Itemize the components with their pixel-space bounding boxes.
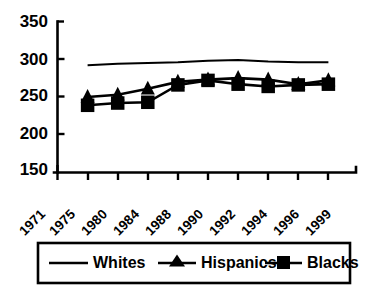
triangle-marker-icon: [169, 255, 185, 267]
x-tick-label: 1994: [238, 206, 270, 238]
x-axis-tick-labels: 1971 1975 1980 1984 1988 1990 1992 1994 …: [16, 206, 334, 238]
y-tick-label: 350: [20, 12, 48, 31]
x-tick-label: 1992: [206, 207, 238, 239]
y-tick-label: 250: [20, 86, 48, 105]
square-marker-icon: [277, 256, 290, 269]
square-marker: [322, 77, 336, 91]
x-tick-label: 1984: [110, 206, 142, 238]
series-whites: [88, 60, 329, 65]
legend-entry-whites[interactable]: Whites: [49, 254, 146, 271]
y-axis-tick-labels: 350 300 250 200 150: [20, 12, 48, 179]
square-marker: [141, 96, 155, 110]
x-tick-label: 1988: [142, 206, 174, 238]
square-marker: [201, 74, 215, 88]
x-tick-label: 1980: [78, 207, 110, 239]
legend-label: Whites: [93, 254, 146, 271]
square-marker: [111, 96, 125, 110]
series-line-whites: [88, 60, 329, 65]
y-tick-label: 150: [20, 160, 48, 179]
x-tick-label: 1975: [46, 206, 78, 238]
legend-entry-blacks[interactable]: Blacks: [265, 254, 359, 271]
x-tick-label: 1971: [16, 206, 48, 238]
x-tick-label: 1999: [302, 207, 334, 239]
square-marker: [231, 77, 245, 91]
x-axis-line: [54, 167, 356, 173]
square-marker: [261, 80, 275, 94]
y-tick-label: 200: [20, 124, 48, 143]
x-tick-label: 1996: [270, 206, 302, 238]
x-tick-label: 1990: [174, 207, 206, 239]
legend-label: Blacks: [307, 254, 359, 271]
line-chart: 350 300 250 200 150: [0, 0, 385, 293]
square-marker: [81, 99, 95, 113]
data-series-layer: [81, 60, 336, 112]
square-marker: [171, 78, 185, 92]
chart-legend: Whites Hispanics Blacks: [38, 243, 359, 283]
legend-entry-hispanics[interactable]: Hispanics: [158, 254, 277, 271]
chart-container: 350 300 250 200 150: [0, 0, 385, 293]
square-marker: [292, 78, 306, 92]
y-tick-label: 300: [20, 50, 48, 69]
